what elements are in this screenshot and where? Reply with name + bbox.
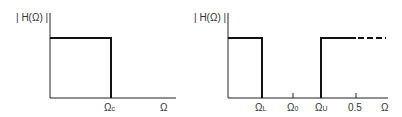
- right-tick-center: Ω0: [287, 103, 298, 114]
- right-tick-lower: ΩL: [255, 103, 266, 114]
- left-xlabel: Ω: [160, 103, 167, 113]
- right-ylabel: | H(Ω) |: [194, 13, 226, 23]
- right-tick-upper: ΩU: [315, 103, 328, 114]
- lowpass-chart: [50, 13, 176, 98]
- left-tick-cutoff: Ωc: [104, 103, 115, 114]
- left-ylabel: | H(Ω) |: [16, 13, 48, 23]
- bandstop-chart: [228, 13, 388, 98]
- right-tick-half: 0.5: [348, 103, 362, 113]
- right-xlabel: Ω: [381, 103, 388, 113]
